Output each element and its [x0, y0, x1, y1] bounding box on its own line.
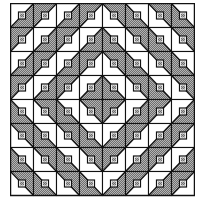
center-square-icon [88, 84, 95, 91]
quilt-cell [103, 52, 126, 76]
quilt-cell [149, 172, 172, 196]
center-square-icon [65, 12, 72, 19]
center-square-icon [88, 156, 95, 163]
quilt-cell [80, 100, 103, 124]
center-square-icon [111, 60, 118, 67]
center-square-icon [134, 84, 141, 91]
quilt-cell [103, 4, 126, 28]
center-square-icon [180, 84, 187, 91]
quilt-cell [149, 148, 172, 172]
quilt-cell [149, 100, 172, 124]
quilt-cell [149, 4, 172, 28]
center-square-icon [180, 36, 187, 43]
quilt-cell [57, 148, 80, 172]
center-square-icon [88, 132, 95, 139]
center-square-icon [180, 156, 187, 163]
center-square-icon [111, 132, 118, 139]
quilt-cell [34, 76, 57, 100]
center-square-icon [111, 156, 118, 163]
center-square-icon [111, 12, 118, 19]
center-square-icon [111, 36, 118, 43]
center-square-icon [88, 36, 95, 43]
center-square-icon [157, 36, 164, 43]
quilt-cell [172, 52, 195, 76]
quilt-cell [149, 76, 172, 100]
center-square-icon [157, 12, 164, 19]
center-square-icon [157, 108, 164, 115]
center-square-icon [19, 60, 26, 67]
center-square-icon [134, 132, 141, 139]
quilt-cell [57, 28, 80, 52]
quilt-cell [103, 172, 126, 196]
center-square-icon [19, 12, 26, 19]
quilt-cell [126, 148, 149, 172]
center-square-icon [42, 132, 49, 139]
center-square-icon [111, 180, 118, 187]
quilt-cell [103, 148, 126, 172]
quilt-cell [149, 52, 172, 76]
center-square-icon [88, 180, 95, 187]
quilt-cell [34, 52, 57, 76]
quilt-cell [34, 100, 57, 124]
quilt-cell [172, 4, 195, 28]
quilt-cell [11, 172, 34, 196]
center-square-icon [180, 60, 187, 67]
quilt-cell [57, 172, 80, 196]
center-square-icon [42, 36, 49, 43]
quilt-cell [126, 76, 149, 100]
center-square-icon [65, 132, 72, 139]
center-square-icon [65, 108, 72, 115]
quilt-cell [80, 76, 103, 100]
quilt-cell [34, 124, 57, 148]
center-square-icon [88, 60, 95, 67]
quilt-cell [34, 28, 57, 52]
center-square-icon [42, 60, 49, 67]
quilt-cell [103, 124, 126, 148]
center-square-icon [111, 84, 118, 91]
quilt-cell [126, 172, 149, 196]
quilt-cell [103, 100, 126, 124]
center-square-icon [134, 108, 141, 115]
center-square-icon [19, 108, 26, 115]
center-square-icon [134, 60, 141, 67]
center-square-icon [88, 12, 95, 19]
center-square-icon [88, 108, 95, 115]
center-square-icon [19, 84, 26, 91]
center-square-icon [42, 84, 49, 91]
quilt-cell [149, 28, 172, 52]
quilt-grid [10, 3, 195, 197]
center-square-icon [65, 60, 72, 67]
center-square-icon [157, 156, 164, 163]
quilt-cell [172, 100, 195, 124]
center-square-icon [134, 36, 141, 43]
center-square-icon [65, 180, 72, 187]
center-square-icon [111, 108, 118, 115]
quilt-cell [80, 124, 103, 148]
center-square-icon [134, 12, 141, 19]
quilt-cell [126, 28, 149, 52]
quilt-cell [172, 148, 195, 172]
center-square-icon [180, 12, 187, 19]
quilt-cell [149, 124, 172, 148]
center-square-icon [180, 132, 187, 139]
center-square-icon [65, 156, 72, 163]
quilt-cell [11, 76, 34, 100]
quilt-cell [11, 148, 34, 172]
center-square-icon [134, 180, 141, 187]
quilt-cell [57, 76, 80, 100]
quilt-cell [57, 4, 80, 28]
quilt-cell [80, 52, 103, 76]
center-square-icon [180, 180, 187, 187]
quilt-cell [57, 124, 80, 148]
center-square-icon [19, 36, 26, 43]
quilt-cell [103, 28, 126, 52]
quilt-cell [80, 172, 103, 196]
quilt-cell [126, 4, 149, 28]
center-square-icon [19, 156, 26, 163]
center-square-icon [157, 84, 164, 91]
quilt-cell [126, 124, 149, 148]
center-square-icon [134, 156, 141, 163]
quilt-cell [172, 28, 195, 52]
quilt-cell [57, 100, 80, 124]
center-square-icon [65, 84, 72, 91]
